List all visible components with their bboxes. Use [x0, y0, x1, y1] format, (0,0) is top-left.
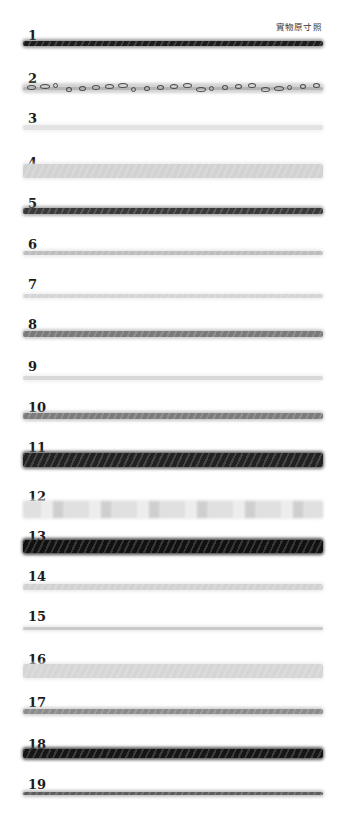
yarn-strand-sample	[23, 208, 323, 214]
yarn-strand-sample	[23, 164, 323, 178]
boucle-loop	[235, 84, 242, 89]
boucle-loop	[274, 86, 284, 91]
yarn-strand-sample	[23, 792, 323, 795]
boucle-loop	[105, 84, 114, 89]
yarn-strand-sample	[23, 709, 323, 714]
boucle-loop	[248, 83, 256, 88]
boucle-loop	[300, 84, 306, 89]
boucle-loop	[27, 85, 36, 90]
yarn-strand-sample	[23, 85, 323, 91]
yarn-strand-sample	[23, 501, 323, 518]
boucle-loop	[157, 85, 164, 90]
boucle-loop	[131, 87, 136, 92]
sample-number-label: 15	[28, 610, 46, 623]
boucle-loop	[66, 87, 72, 92]
boucle-loop	[287, 85, 292, 90]
boucle-loop	[118, 83, 128, 88]
boucle-loop	[196, 87, 206, 92]
boucle-loop	[261, 87, 270, 92]
yarn-strand-sample	[23, 540, 323, 553]
yarn-strand-sample	[23, 749, 323, 758]
boucle-loop	[222, 85, 228, 90]
yarn-strand-sample	[23, 125, 323, 130]
yarn-strand-sample	[23, 453, 323, 467]
yarn-strand-sample	[23, 584, 323, 590]
boucle-loop	[53, 83, 58, 88]
yarn-strand-sample	[23, 331, 323, 337]
yarn-strand-sample	[23, 413, 323, 419]
actual-size-caption: 實物原寸照	[276, 20, 323, 32]
yarn-strand-sample	[23, 376, 323, 380]
sample-number-label: 7	[28, 278, 37, 291]
boucle-loop	[183, 83, 192, 88]
yarn-strand-sample	[23, 664, 323, 678]
yarn-strand-sample	[23, 251, 323, 255]
boucle-loop	[92, 85, 100, 90]
yarn-strand-sample	[23, 294, 323, 298]
boucle-loop	[313, 83, 320, 88]
boucle-loop	[40, 84, 50, 89]
boucle-loop	[79, 86, 86, 91]
boucle-loop	[144, 86, 150, 91]
boucle-loop	[170, 84, 178, 89]
boucle-loop	[209, 86, 214, 91]
yarn-strand-sample	[23, 627, 323, 630]
yarn-strand-sample	[23, 41, 323, 46]
sample-number-label: 9	[28, 360, 37, 373]
